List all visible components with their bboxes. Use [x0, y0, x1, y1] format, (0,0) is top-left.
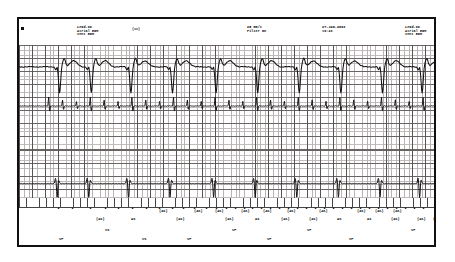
strip-header: Lead-IIAtrial EGMVent EGM25 mm/sFilter O… [19, 19, 434, 45]
right-lead-label: Lead-IIAtrial EGMVent EGM [405, 26, 426, 37]
event-tick-icon: • [404, 206, 407, 212]
event-tick-icon: • [131, 206, 134, 212]
ventricular-marker: VP [187, 237, 191, 241]
event-tick-icon: • [234, 206, 237, 212]
ventricular-marker: VP [59, 237, 63, 241]
atrial-sense-marker: (AS) [281, 217, 290, 221]
atrial-sense-marker: (AS) [393, 209, 402, 213]
atrial-sense-marker: (AS) [159, 209, 168, 213]
event-tick-icon: • [71, 206, 74, 212]
egm-strip-inner: Lead-IIAtrial EGMVent EGM25 mm/sFilter O… [19, 19, 434, 245]
event-tick-icon: • [205, 206, 208, 212]
event-tick-icon: • [89, 206, 92, 212]
atrial-sense-marker: (AS) [225, 217, 234, 221]
atrial-sense-marker: (AS) [287, 209, 296, 213]
atrial-sense-marker: (AS) [357, 209, 366, 213]
event-tick-icon: • [368, 206, 371, 212]
atrial-sense-marker: ( [433, 217, 434, 221]
atrial-sense-marker: (AS) [241, 209, 250, 213]
event-tick-icon: • [171, 206, 174, 212]
event-tick-icon: • [413, 206, 416, 212]
atrial-sense-marker: (AS) [417, 217, 426, 221]
atrial-sense-marker: (AS) [96, 217, 105, 221]
left-edge-marker-icon [21, 27, 24, 30]
ventricular-marker: VS [142, 237, 146, 241]
event-tick-icon: • [350, 206, 353, 212]
header-line: Vent EGM [405, 33, 426, 37]
event-tick-icon: • [278, 206, 281, 212]
event-tick-icon: • [422, 206, 425, 212]
surface-ecg-trace [19, 45, 434, 97]
atrial-sense-marker: (AS) [391, 217, 400, 221]
paren-1s-scale: (1s) [132, 27, 140, 31]
atrial-sense-marker: (AS) [263, 209, 272, 213]
channel-atrial-egm [19, 97, 434, 150]
event-tick-icon: • [332, 206, 335, 212]
atrial-sense-marker: AS [131, 217, 135, 221]
atrial-sense-marker: AS [337, 217, 341, 221]
ventricular-egm-trace [19, 150, 434, 198]
header-line: Filter On [247, 30, 266, 34]
event-tick-icon: • [314, 206, 317, 212]
event-tick-icon: • [251, 206, 254, 212]
egm-strip-frame: Lead-IIAtrial EGMVent EGM25 mm/sFilter O… [17, 17, 436, 247]
ventricular-marker: VP [267, 237, 271, 241]
sweep-filter-label: 25 mm/sFilter On [247, 26, 266, 33]
atrial-sense-marker: (AS) [319, 209, 328, 213]
event-tick-icon: • [104, 206, 107, 212]
ventricular-marker: VS [105, 228, 109, 232]
atrial-egm-trace [19, 97, 434, 150]
atrial-sense-marker: (AS) [194, 209, 203, 213]
event-tick-icon: • [225, 206, 228, 212]
event-tick-icon: • [145, 206, 148, 212]
atrial-sense-marker: (AS) [309, 217, 318, 221]
header-line: 16:23 [322, 30, 345, 34]
ventricular-marker: VP [411, 228, 415, 232]
marker-annotation-band: •••••••••••••••••••••••••••••••••••• (AS… [19, 198, 434, 245]
atrial-sense-marker: (AS) [215, 209, 224, 213]
channel-surface-ecg [19, 45, 434, 97]
atrial-sense-marker: AS [255, 217, 259, 221]
event-tick-icon: • [341, 206, 344, 212]
event-tick-icon: • [182, 206, 185, 212]
ventricular-marker: VP [349, 237, 353, 241]
ventricular-marker: VP [307, 228, 311, 232]
event-tick-icon: • [117, 206, 120, 212]
event-tick-icon: • [296, 206, 299, 212]
datetime-label: 27-JAN-200316:23 [322, 26, 345, 33]
atrial-sense-marker: (AS) [375, 209, 384, 213]
event-tick-icon: • [305, 206, 308, 212]
ventricular-marker: VP [232, 228, 236, 232]
atrial-sense-marker: (AS) [176, 217, 185, 221]
event-tick-icon: • [57, 206, 60, 212]
header-line: Vent EGM [77, 33, 98, 37]
channel-ventricular-egm [19, 150, 434, 198]
left-lead-label: Lead-IIAtrial EGMVent EGM [77, 26, 98, 37]
atrial-sense-marker: AS [367, 217, 371, 221]
event-tick-icon: • [386, 206, 389, 212]
